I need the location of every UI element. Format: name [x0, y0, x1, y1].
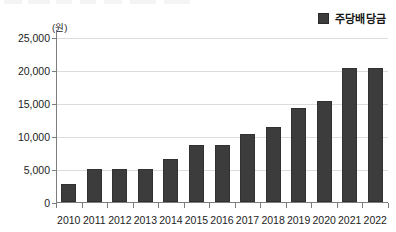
x-axis-tick-label-2010: 2010 [57, 215, 80, 226]
x-tick-mark [260, 203, 261, 208]
bar-2018 [266, 127, 281, 202]
legend-label: 주당배당금 [335, 10, 386, 26]
y-tick-mark [52, 38, 57, 39]
bar-2016 [215, 145, 230, 202]
cropped-heading-remnant [4, 0, 214, 4]
legend-swatch-icon [318, 13, 329, 24]
x-axis-tick-label-2013: 2013 [134, 215, 157, 226]
y-axis-tick-label: 20,000 [18, 66, 50, 77]
bar-2021 [342, 68, 357, 202]
y-axis-tick-label: 5,000 [24, 165, 50, 176]
x-tick-mark [82, 203, 83, 208]
x-axis-tick-label-2019: 2019 [287, 215, 310, 226]
x-tick-mark [311, 203, 312, 208]
y-tick-mark [52, 170, 57, 171]
bar-2011 [87, 169, 102, 202]
x-axis-tick-label-2017: 2017 [236, 215, 259, 226]
bar-2012 [112, 169, 127, 202]
x-axis-tick-label-2011: 2011 [83, 215, 106, 226]
x-tick-mark [209, 203, 210, 208]
y-axis-tick-label: 25,000 [18, 33, 50, 44]
x-tick-mark [133, 203, 134, 208]
chart-legend: 주당배당금 [318, 10, 386, 26]
x-tick-mark [362, 203, 363, 208]
bar-2015 [189, 145, 204, 202]
y-axis-tick-label: 15,000 [18, 99, 50, 110]
x-axis-tick-label-2012: 2012 [108, 215, 131, 226]
x-axis-tick-label-2020: 2020 [312, 215, 335, 226]
bar-2022 [368, 68, 383, 202]
bar-2019 [291, 108, 306, 202]
x-tick-mark [158, 203, 159, 208]
y-tick-mark [52, 104, 57, 105]
gridline [56, 137, 388, 138]
y-axis-unit-label: (원) [52, 20, 67, 34]
x-tick-mark [56, 203, 57, 208]
bar-2013 [138, 169, 153, 202]
gridline [56, 104, 388, 105]
x-tick-mark [286, 203, 287, 208]
x-tick-mark [337, 203, 338, 208]
x-axis-tick-label-2016: 2016 [210, 215, 233, 226]
y-axis-line [56, 30, 57, 203]
y-tick-mark [52, 137, 57, 138]
y-axis-tick-label: 10,000 [18, 132, 50, 143]
x-axis-tick-label-2021: 2021 [338, 215, 361, 226]
x-axis-tick-label-2015: 2015 [185, 215, 208, 226]
x-axis-line [56, 202, 388, 203]
bar-2017 [240, 134, 255, 202]
dividend-per-share-bar-chart: 주당배당금 (원) 05,00010,00015,00020,00025,000… [0, 0, 396, 232]
x-tick-mark [107, 203, 108, 208]
plot-area: 05,00010,00015,00020,00025,0002010201120… [56, 38, 388, 203]
x-tick-mark [388, 203, 389, 208]
x-tick-mark [235, 203, 236, 208]
bar-2014 [163, 159, 178, 202]
x-axis-tick-label-2022: 2022 [364, 215, 387, 226]
gridline [56, 71, 388, 72]
gridline [56, 38, 388, 39]
y-tick-mark [52, 71, 57, 72]
x-axis-tick-label-2014: 2014 [159, 215, 182, 226]
x-tick-mark [184, 203, 185, 208]
bar-2010 [61, 184, 76, 202]
y-axis-tick-label: 0 [44, 198, 50, 209]
x-axis-tick-label-2018: 2018 [261, 215, 284, 226]
bar-2020 [317, 101, 332, 202]
